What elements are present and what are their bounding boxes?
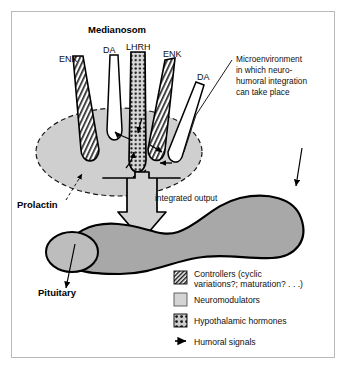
label-da-left: DA [103, 45, 116, 55]
hatch-swatch [174, 271, 187, 284]
solid-gray-swatch [174, 293, 187, 306]
pituitary-label: Pituitary [38, 287, 77, 298]
diagram-svg: Medianosom ENK DA LHRH ENK DA Microenvir… [0, 0, 348, 371]
legend-label-controllers-line-2: variations?; maturation? . . .) [194, 279, 303, 289]
legend-label-hypothalamic-hormones: Hypothalamic hormones [194, 316, 287, 326]
medianosom-label: Medianosom [88, 24, 146, 35]
label-da-right: DA [197, 72, 210, 82]
legend-label-humoral-signals: Humoral signals [194, 337, 256, 347]
pointer-arrow-gland-right [296, 148, 302, 186]
integrated-output-label: integrated output [155, 193, 218, 203]
terminal-da-left [107, 55, 122, 140]
legend-label-neuromodulators: Neuromodulators [194, 295, 260, 305]
legend: Controllers (cyclic variations?; maturat… [174, 269, 303, 347]
legend-item-neuromodulators: Neuromodulators [174, 293, 260, 306]
label-enk-left: ENK [59, 54, 78, 64]
legend-item-humoral-signals: Humoral signals [175, 337, 256, 347]
pituitary-gland [46, 196, 303, 274]
microenvironment-annotation-line-3: humoral integration [236, 76, 307, 86]
legend-item-hypothalamic-hormones: Hypothalamic hormones [174, 314, 287, 327]
legend-item-controllers: Controllers (cyclic variations?; maturat… [174, 269, 303, 289]
microenvironment-annotation-line-1: Microenvironment [236, 54, 303, 64]
microenvironment-annotation-line-4: can take place [236, 87, 290, 97]
dotted-grid-swatch [174, 314, 187, 327]
microenvironment-annotation-line-2: in which neuro- [236, 65, 293, 75]
label-lhrh: LHRH [126, 42, 151, 52]
legend-label-controllers-line-1: Controllers (cyclic [194, 269, 263, 279]
terminal-lhrh [129, 52, 146, 172]
label-enk-right: ENK [163, 49, 182, 59]
figure-canvas: Medianosom ENK DA LHRH ENK DA Microenvir… [0, 0, 348, 371]
prolactin-label: Prolactin [17, 199, 58, 210]
